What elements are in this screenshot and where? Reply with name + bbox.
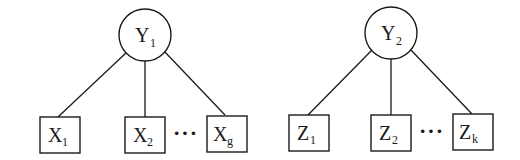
indicator-label-xg: X: [213, 123, 228, 145]
edge-y2-zk: [410, 49, 472, 114]
indicator-sub-z2: 2: [392, 133, 398, 147]
indicator-label-x1: X: [48, 124, 63, 146]
indicator-sub-xg: g: [227, 134, 233, 148]
indicator-sub-x1: 1: [62, 135, 68, 149]
indicator-label-z2: Z: [379, 122, 391, 144]
latent-label-y2: Y: [381, 22, 395, 44]
indicator-sub-zk: k: [472, 132, 478, 146]
edge-y1-x1: [58, 52, 127, 117]
group-y1: Y 1 X 1 X 2 ··· X g: [40, 9, 247, 153]
diagram-canvas: Y 1 X 1 X 2 ··· X g Y 2 Z 1 Z 2 ··· Z k: [0, 0, 520, 160]
indicator-sub-x2: 2: [147, 135, 153, 149]
indicator-label-x2: X: [133, 124, 148, 146]
edge-y1-xg: [164, 51, 225, 115]
indicator-label-zk: Z: [459, 121, 471, 143]
ellipsis-x: ···: [173, 120, 198, 145]
edge-y2-z1: [308, 50, 372, 115]
latent-sub-y2: 2: [396, 34, 402, 48]
latent-sub-y1: 1: [150, 36, 156, 50]
latent-label-y1: Y: [135, 24, 149, 46]
indicator-sub-z1: 1: [310, 133, 316, 147]
ellipsis-z: ···: [419, 118, 444, 143]
indicator-label-z1: Z: [297, 122, 309, 144]
group-y2: Y 2 Z 1 Z 2 ··· Z k: [289, 7, 493, 151]
